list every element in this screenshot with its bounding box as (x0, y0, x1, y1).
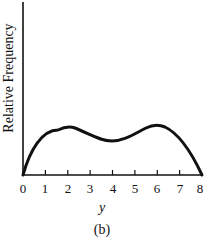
x-tick-label: 1 (38, 181, 52, 197)
x-tick-label: 2 (61, 181, 75, 197)
x-tick-label: 3 (83, 181, 97, 197)
x-tick-label: 5 (128, 181, 142, 197)
frequency-curve (23, 125, 202, 175)
figure-caption: (b) (0, 222, 204, 238)
x-tick-label: 7 (173, 181, 187, 197)
y-axis-label: Relative Frequency (1, 13, 17, 143)
x-tick-label: 8 (193, 181, 204, 197)
x-axis-label: y (0, 200, 204, 216)
x-tick-label: 0 (16, 181, 30, 197)
x-tick-label: 4 (106, 181, 120, 197)
x-tick-label: 6 (150, 181, 164, 197)
